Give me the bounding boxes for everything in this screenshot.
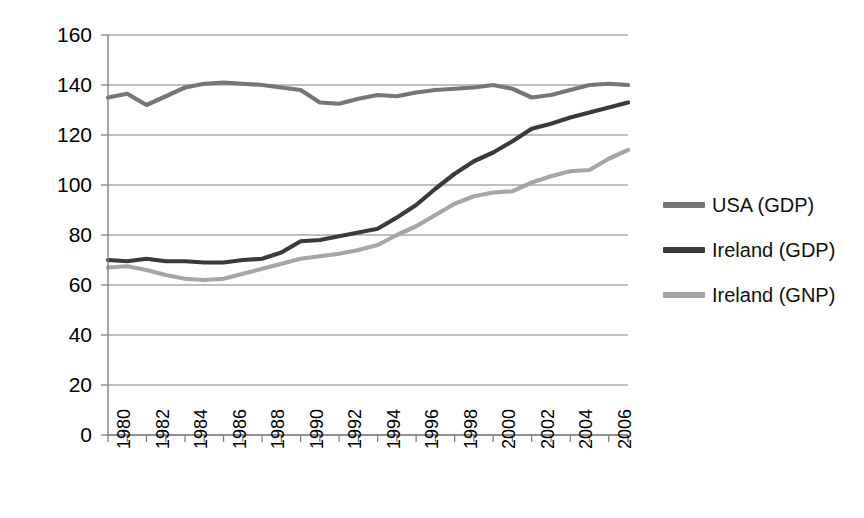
legend-item: USA (GDP): [663, 182, 863, 227]
x-axis-tick-label: 2002: [539, 409, 557, 449]
x-axis-tick-label: 2000: [500, 409, 518, 449]
legend-color-swatch: [663, 292, 705, 298]
x-axis-tick-label: 1998: [462, 409, 480, 449]
x-axis-tick-label: 1982: [154, 409, 172, 449]
x-axis-tick-label: 2004: [577, 409, 595, 449]
legend-item-label: Ireland (GNP): [712, 285, 835, 305]
line-chart: 020406080100120140160 198019821984198619…: [0, 0, 864, 518]
x-axis-tick-label: 1980: [115, 409, 133, 449]
x-axis-tick-label: 1988: [269, 409, 287, 449]
chart-legend: USA (GDP)Ireland (GDP)Ireland (GNP): [663, 182, 863, 317]
legend-item: Ireland (GDP): [663, 227, 863, 272]
legend-color-swatch: [663, 202, 705, 208]
x-axis-tick-label: 1994: [385, 409, 403, 449]
x-axis-tick-label: 1992: [346, 409, 364, 449]
x-axis-tick-label: 1996: [423, 409, 441, 449]
x-axis-tick-label: 1984: [192, 409, 210, 449]
x-axis-tick-label: 1986: [231, 409, 249, 449]
legend-item: Ireland (GNP): [663, 272, 863, 317]
legend-color-swatch: [663, 247, 705, 253]
x-axis-tick-label: 1990: [308, 409, 326, 449]
legend-item-label: Ireland (GDP): [712, 240, 835, 260]
x-axis-tick-label: 2006: [616, 409, 634, 449]
legend-item-label: USA (GDP): [712, 195, 814, 215]
